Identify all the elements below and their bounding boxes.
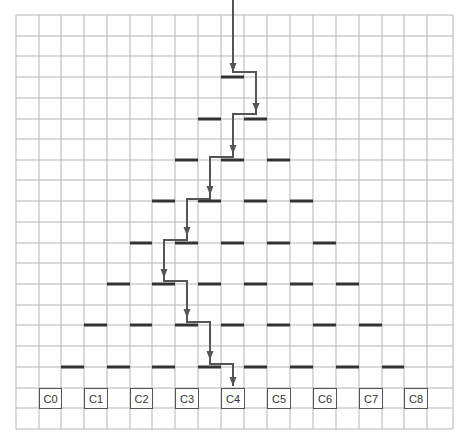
bin-label-c1: C1 [84,388,108,409]
arrow-down-icon [230,377,237,386]
arrow-down-icon [184,309,191,318]
bin-label-c6: C6 [313,388,337,409]
bin-label-c5: C5 [267,388,291,409]
bin-label-c4: C4 [221,388,245,409]
arrow-down-icon [184,227,191,236]
bin-label-c7: C7 [359,388,383,409]
arrow-down-icon [207,186,214,195]
bin-label-c3: C3 [175,388,199,409]
bin-label-c0: C0 [39,388,62,409]
galton-board-diagram: C0C1C2C3C4C5C6C7C8 [0,0,465,441]
board-canvas [0,0,465,441]
bin-label-c8: C8 [404,388,428,409]
bin-label-c2: C2 [130,388,153,409]
arrow-down-icon [230,145,237,154]
arrow-down-icon [161,269,168,278]
arrow-down-icon [253,103,260,112]
arrow-down-icon [207,351,214,360]
arrow-down-icon [230,63,237,72]
